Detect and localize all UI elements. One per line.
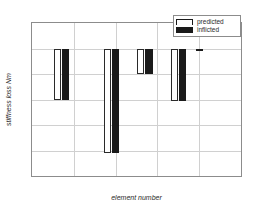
gridline-vertical	[74, 23, 75, 176]
y-tick-mark	[31, 74, 32, 75]
x-tick-mark	[32, 176, 33, 177]
x-axis-title: element number	[31, 194, 242, 201]
bar-predicted-9	[104, 49, 111, 154]
gridline-horizontal	[32, 151, 241, 152]
legend-swatch-inflicted-icon	[176, 27, 193, 33]
gridline-horizontal	[32, 100, 241, 101]
plot-area: 0.50-0.5-1-1.5-2-2.50510152025	[31, 22, 242, 177]
y-tick-mark	[31, 100, 32, 101]
legend-item-predicted: predicted	[176, 18, 238, 26]
legend-item-inflicted: inflicted	[176, 26, 238, 34]
x-tick-mark	[157, 176, 158, 177]
bar-predicted-17	[171, 49, 178, 101]
legend-label-inflicted: inflicted	[197, 26, 219, 34]
bar-inflicted-10	[112, 49, 119, 154]
x-tick-mark	[241, 176, 242, 177]
bar-predicted-3	[54, 49, 61, 100]
bar-inflicted-4	[62, 49, 69, 100]
bar-inflicted-14	[145, 49, 152, 75]
y-tick-mark	[31, 151, 32, 152]
x-tick-mark	[116, 176, 117, 177]
bar-inflicted-20	[196, 49, 203, 51]
chart-legend: predicted inflicted	[173, 15, 241, 37]
legend-label-predicted: predicted	[197, 18, 224, 26]
y-tick-mark	[31, 49, 32, 50]
bar-predicted-13	[137, 49, 144, 75]
y-axis-title-label: stiffness loss Nm	[5, 73, 12, 126]
gridline-horizontal	[32, 125, 241, 126]
gridline-vertical	[157, 23, 158, 176]
gridline-vertical	[199, 23, 200, 176]
x-tick-mark	[199, 176, 200, 177]
bar-inflicted-18	[179, 49, 186, 101]
chart-figure: stiffness loss Nm 0.50-0.5-1-1.5-2-2.505…	[0, 0, 255, 217]
legend-swatch-predicted-icon	[176, 19, 193, 25]
y-tick-mark	[31, 125, 32, 126]
y-tick-mark	[31, 23, 32, 24]
x-tick-mark	[74, 176, 75, 177]
y-axis-title: stiffness loss Nm	[2, 22, 14, 177]
y-tick-mark	[31, 176, 32, 177]
